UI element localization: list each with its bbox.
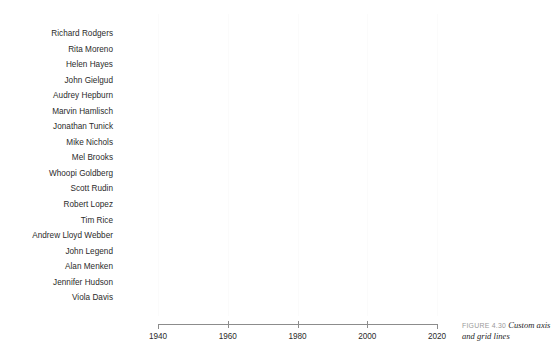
y-axis-label: Richard Rodgers bbox=[0, 26, 114, 42]
y-axis-label: Audrey Hepburn bbox=[0, 88, 114, 104]
figure-number: FIGURE 4.30 bbox=[462, 322, 506, 329]
y-axis-label: Helen Hayes bbox=[0, 57, 114, 73]
gridline-vertical bbox=[437, 14, 438, 316]
y-axis-label: Jennifer Hudson bbox=[0, 275, 114, 291]
x-axis-tick-label: 1940 bbox=[138, 332, 178, 341]
y-axis-label: Andrew Lloyd Webber bbox=[0, 228, 114, 244]
x-axis-tick-label: 2020 bbox=[417, 332, 457, 341]
x-axis-tick bbox=[367, 321, 368, 328]
x-axis: 19401960198020002020 bbox=[128, 324, 450, 354]
x-axis-tick-label: 1960 bbox=[208, 332, 248, 341]
plot-panel bbox=[128, 14, 450, 316]
x-axis-tick-label: 2000 bbox=[347, 332, 387, 341]
y-axis-label: Marvin Hamlisch bbox=[0, 104, 114, 120]
y-axis-label: Alan Menken bbox=[0, 259, 114, 275]
y-axis-label: Mike Nichols bbox=[0, 135, 114, 151]
x-axis-tick bbox=[298, 321, 299, 328]
figure-container: Richard RodgersRita MorenoHelen HayesJoh… bbox=[0, 0, 557, 360]
y-axis-label: Jonathan Tunick bbox=[0, 119, 114, 135]
y-axis-label: Robert Lopez bbox=[0, 197, 114, 213]
y-axis-label: Viola Davis bbox=[0, 290, 114, 306]
y-axis-category-labels: Richard RodgersRita MorenoHelen HayesJoh… bbox=[0, 26, 114, 306]
x-axis-tick-label: 1980 bbox=[278, 332, 318, 341]
y-axis-label: Mel Brooks bbox=[0, 150, 114, 166]
x-axis-tick bbox=[437, 324, 438, 329]
figure-caption: FIGURE 4.30 Custom axis and grid lines bbox=[462, 320, 554, 342]
y-axis-label: John Gielgud bbox=[0, 73, 114, 89]
x-axis-tick bbox=[158, 324, 159, 329]
gridline-vertical bbox=[298, 14, 299, 316]
y-axis-label: Tim Rice bbox=[0, 213, 114, 229]
y-axis-label: Whoopi Goldberg bbox=[0, 166, 114, 182]
y-axis-label: Rita Moreno bbox=[0, 42, 114, 58]
gridline-vertical bbox=[158, 14, 159, 316]
gridline-vertical bbox=[367, 14, 368, 316]
gridline-vertical bbox=[228, 14, 229, 316]
x-axis-tick bbox=[228, 321, 229, 328]
y-axis-label: John Legend bbox=[0, 244, 114, 260]
y-axis-label: Scott Rudin bbox=[0, 181, 114, 197]
